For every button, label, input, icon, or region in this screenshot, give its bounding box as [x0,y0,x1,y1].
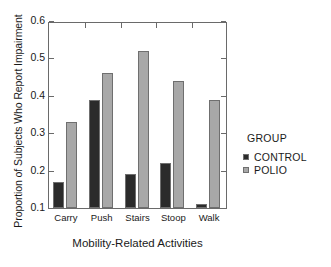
plot-area: 0.10.20.30.40.50.6 [48,22,227,209]
legend-label: CONTROL [254,151,307,163]
bar-control-stoop [160,163,171,208]
bar-control-stairs [125,174,136,208]
bar-group [49,23,85,208]
bar-group [156,23,192,208]
legend-title: GROUP [243,132,331,144]
y-axis-tick-label: 0.2 [30,164,45,176]
x-axis-tick-label-push: Push [84,212,120,223]
y-axis-tick-label: 0.6 [30,14,45,26]
y-axis-tick-label: 0.3 [30,126,45,138]
bar-group [192,23,228,208]
bar-polio-push [102,73,113,208]
x-axis-title: Mobility-Related Activities [48,237,227,249]
bar-polio-stairs [138,51,149,208]
chart-figure: Proportion of Subjects Who Report Impair… [0,0,331,267]
y-axis-tick-label: 0.1 [30,201,45,213]
x-axis-tick-label-stoop: Stoop [155,212,191,223]
bar-control-push [89,100,100,208]
legend-swatch-icon [243,154,249,160]
y-axis-title: Proportion of Subjects Who Report Impair… [12,4,24,239]
y-axis-tick-label: 0.5 [30,51,45,63]
y-axis-tick-mark [49,21,54,22]
legend-label: POLIO [254,164,287,176]
legend-items: CONTROLPOLIO [243,150,331,176]
bar-group [85,23,121,208]
bar-polio-walk [209,100,220,208]
bar-group [121,23,157,208]
legend: GROUP CONTROLPOLIO [243,132,331,176]
legend-item-polio: POLIO [243,163,331,176]
bar-polio-carry [66,122,77,208]
y-axis-tick-label: 0.4 [30,89,45,101]
bar-polio-stoop [173,81,184,208]
legend-swatch-icon [243,167,249,173]
legend-item-control: CONTROL [243,150,331,163]
x-axis-tick-label-stairs: Stairs [120,212,156,223]
x-axis-tick-label-walk: Walk [191,212,227,223]
x-axis-tick-label-carry: Carry [48,212,84,223]
bar-control-carry [53,182,64,208]
bar-series-container [49,23,226,208]
y-axis-tick-mark-right [221,21,226,22]
bar-control-walk [196,204,207,208]
